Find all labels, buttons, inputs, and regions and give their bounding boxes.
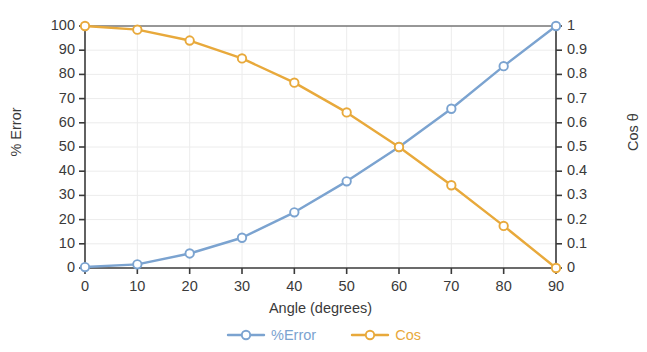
x-axis-title: Angle (degrees) — [85, 300, 556, 316]
data-point — [290, 208, 298, 216]
axis-ticks — [79, 26, 562, 274]
data-point — [342, 177, 350, 185]
legend-label: %Error — [271, 327, 316, 343]
x-axis-tick-label: 60 — [379, 278, 419, 294]
y-axis-right-tick-label: 0.7 — [567, 90, 607, 106]
data-point — [395, 143, 403, 151]
y-axis-right-tick-label: 0.4 — [567, 162, 607, 178]
legend-marker-icon — [226, 328, 266, 342]
y-axis-left-tick-label: 0 — [35, 259, 75, 275]
y-axis-right-tick-label: 0.5 — [567, 138, 607, 154]
data-point — [552, 264, 560, 272]
y-axis-left-tick-label: 60 — [35, 114, 75, 130]
data-point — [499, 62, 507, 70]
data-point — [447, 181, 455, 189]
data-point — [238, 54, 246, 62]
data-point — [238, 234, 246, 242]
x-axis-tick-label: 50 — [327, 278, 367, 294]
data-point — [499, 222, 507, 230]
data-point — [185, 249, 193, 257]
chart-legend: %ErrorCos — [0, 327, 647, 343]
y-axis-left-tick-label: 100 — [35, 17, 75, 33]
legend-label: Cos — [395, 327, 421, 343]
y-axis-right-tick-label: 0.9 — [567, 41, 607, 57]
legend-marker-icon — [350, 328, 390, 342]
y-axis-right-tick-label: 0.2 — [567, 211, 607, 227]
y-axis-right-tick-label: 0.8 — [567, 65, 607, 81]
y-axis-right-tick-label: 1 — [567, 17, 607, 33]
y-axis-left-tick-label: 40 — [35, 162, 75, 178]
x-axis-tick-label: 0 — [65, 278, 105, 294]
y-axis-right-tick-label: 0.1 — [567, 235, 607, 251]
y-axis-right-title: Cos θ — [625, 82, 641, 182]
y-axis-left-title: % Error — [8, 82, 24, 182]
x-axis-tick-label: 10 — [117, 278, 157, 294]
y-axis-left-tick-label: 30 — [35, 186, 75, 202]
x-axis-tick-label: 80 — [484, 278, 524, 294]
y-axis-left-tick-label: 20 — [35, 211, 75, 227]
gridlines — [85, 26, 556, 268]
y-axis-left-tick-label: 90 — [35, 41, 75, 57]
data-point — [290, 78, 298, 86]
data-point — [81, 263, 89, 271]
legend-item[interactable]: Cos — [350, 327, 421, 343]
y-axis-left-tick-label: 50 — [35, 138, 75, 154]
data-point — [185, 36, 193, 44]
x-axis-tick-label: 70 — [431, 278, 471, 294]
x-axis-tick-label: 30 — [222, 278, 262, 294]
legend-item[interactable]: %Error — [226, 327, 316, 343]
data-point — [342, 108, 350, 116]
y-axis-left-tick-label: 10 — [35, 235, 75, 251]
data-point — [133, 260, 141, 268]
data-point — [133, 25, 141, 33]
y-axis-right-tick-label: 0 — [567, 259, 607, 275]
y-axis-left-tick-label: 80 — [35, 65, 75, 81]
data-point — [447, 105, 455, 113]
x-axis-tick-label: 90 — [536, 278, 576, 294]
y-axis-right-tick-label: 0.3 — [567, 186, 607, 202]
y-axis-left-tick-label: 70 — [35, 90, 75, 106]
data-point — [81, 22, 89, 30]
x-axis-tick-label: 20 — [170, 278, 210, 294]
chart-figure: % Error Cos θ Angle (degrees) 0102030405… — [0, 0, 647, 352]
y-axis-right-tick-label: 0.6 — [567, 114, 607, 130]
data-point — [552, 22, 560, 30]
x-axis-tick-label: 40 — [274, 278, 314, 294]
